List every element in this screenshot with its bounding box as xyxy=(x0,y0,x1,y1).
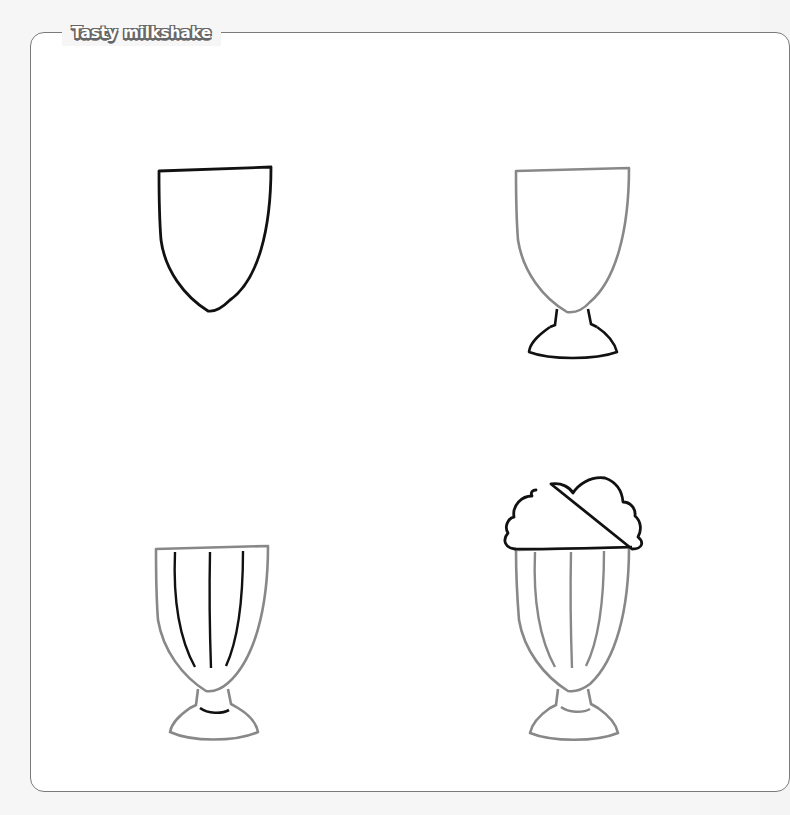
cream-base-line xyxy=(515,547,632,549)
whipped-cream xyxy=(505,478,642,549)
stem-and-base xyxy=(530,689,618,740)
bowl-outline xyxy=(516,547,629,691)
ridges xyxy=(535,551,604,712)
